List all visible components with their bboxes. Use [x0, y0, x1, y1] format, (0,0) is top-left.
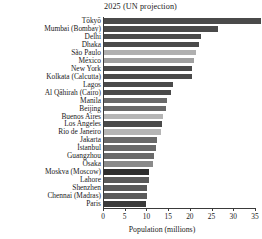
bar — [103, 201, 146, 207]
x-axis-tick-label: 20 — [186, 212, 193, 221]
x-axis-tick — [233, 208, 234, 211]
bar — [103, 129, 161, 135]
bar — [103, 50, 196, 56]
bar — [103, 26, 218, 32]
x-axis-tick-label: 0 — [101, 212, 105, 221]
bar — [103, 82, 173, 88]
x-axis-title-wrap: Population (millions) — [0, 225, 262, 234]
x-axis-tick — [212, 208, 213, 211]
chart-title: 2025 (UN projection) — [104, 2, 177, 11]
x-axis-title: Population (millions) — [129, 225, 196, 234]
bar — [103, 106, 166, 112]
bar — [103, 177, 149, 183]
y-axis-tick-label: Paris — [2, 200, 103, 208]
bar — [103, 34, 201, 40]
bar — [103, 145, 156, 151]
bar — [103, 74, 192, 80]
bar — [103, 42, 199, 48]
bar — [103, 18, 261, 24]
y-axis-category-labels: TōkyōMumbai (Bombay)DelhiDhakaSão PauloM… — [0, 17, 103, 208]
bar — [103, 161, 153, 167]
x-axis-tick — [190, 208, 191, 211]
bar — [103, 193, 147, 199]
x-axis-tick — [168, 208, 169, 211]
bar — [103, 169, 149, 175]
x-axis-tick-label: 35 — [251, 212, 258, 221]
plot-area — [103, 17, 255, 208]
x-axis-tick — [255, 208, 256, 211]
bar — [103, 90, 171, 96]
bar — [103, 153, 154, 159]
x-axis-tick — [125, 208, 126, 211]
x-axis-tick-label: 10 — [143, 212, 150, 221]
bar — [103, 58, 194, 64]
bar — [103, 98, 167, 104]
x-axis-tick-label: 30 — [230, 212, 237, 221]
x-axis-tick-label: 25 — [208, 212, 215, 221]
bar — [103, 114, 163, 120]
bar — [103, 66, 192, 72]
bar — [103, 185, 147, 191]
x-axis-tick — [146, 208, 147, 211]
x-axis-tick-label: 5 — [123, 212, 127, 221]
x-axis-tick — [103, 208, 104, 211]
x-axis-tick-label: 15 — [164, 212, 171, 221]
y-axis-spine — [103, 17, 104, 208]
bar — [103, 137, 157, 143]
population-bar-chart: 2025 (UN projection) TōkyōMumbai (Bombay… — [0, 0, 262, 239]
bar — [103, 121, 162, 127]
